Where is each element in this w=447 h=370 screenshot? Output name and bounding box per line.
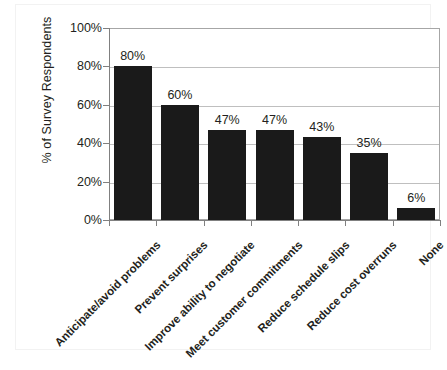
x-tick-mark — [345, 221, 346, 226]
y-tick-label: 80% — [56, 60, 102, 73]
bar — [350, 153, 388, 220]
bar-value-label: 35% — [339, 137, 399, 150]
bar — [114, 66, 152, 220]
x-tick-mark — [440, 221, 441, 226]
x-category-label: Meet customer commitments — [83, 238, 304, 370]
x-tick-mark — [393, 221, 394, 226]
bar-value-label: 80% — [103, 50, 163, 63]
y-axis-tick-labels: 0%20%40%60%80%100% — [52, 5, 102, 349]
y-tick-label: 40% — [56, 137, 102, 150]
bar-value-label: 60% — [150, 89, 210, 102]
y-tick-label: 100% — [56, 22, 102, 35]
bar — [256, 130, 294, 220]
x-tick-mark — [204, 221, 205, 226]
y-tick-label: 60% — [56, 99, 102, 112]
x-category-label: None — [225, 238, 446, 370]
bar — [303, 137, 341, 220]
chart-figure: 0%20%40%60%80%100% % of Survey Responden… — [15, 4, 431, 350]
x-category-label: Reduce schedule slips — [130, 238, 351, 370]
bar — [208, 130, 246, 220]
y-tick-label: 0% — [56, 214, 102, 227]
x-tick-mark — [298, 221, 299, 226]
bar-value-label: 6% — [386, 192, 446, 205]
bar — [161, 105, 199, 220]
y-axis-title: % of Survey Respondents — [40, 15, 54, 165]
x-category-label: Prevent surprises — [0, 238, 210, 370]
x-tick-mark — [251, 221, 252, 226]
x-tick-mark — [156, 221, 157, 226]
x-axis-line — [109, 220, 441, 221]
x-tick-mark — [109, 221, 110, 226]
bar — [397, 208, 435, 220]
x-category-label: Reduce cost overruns — [177, 238, 398, 370]
y-tick-label: 20% — [56, 176, 102, 189]
bar-value-label: 43% — [292, 121, 352, 134]
